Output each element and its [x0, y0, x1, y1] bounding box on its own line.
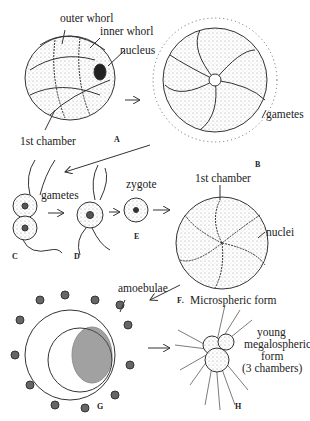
label-h-form: form: [261, 350, 283, 362]
label-outer-whorl: outer whorl: [60, 12, 113, 24]
label-gametes-c: gametes: [41, 189, 79, 201]
stage-e-zygote: [124, 198, 148, 222]
label-nuclei: nuclei: [266, 226, 294, 238]
label-nucleus: nucleus: [120, 44, 155, 56]
letter-g: G: [97, 402, 104, 411]
letter-e: E: [134, 232, 140, 241]
label-gametes-b: gametes: [266, 108, 304, 120]
letter-d: D: [74, 252, 80, 261]
stage-g-amoebulae: [11, 291, 134, 412]
label-h-megalospheric: megalospheric: [244, 338, 310, 350]
letter-h: H: [235, 402, 242, 411]
stage-a-shell: [25, 30, 125, 130]
letter-b: B: [255, 160, 261, 169]
label-first-chamber-a: 1st chamber: [20, 135, 76, 147]
letter-c: C: [12, 252, 18, 261]
letter-a: A: [114, 135, 120, 144]
label-first-chamber-f: 1st chamber: [195, 172, 251, 184]
label-h-young: young: [257, 326, 286, 338]
stage-c-gametes: [13, 160, 62, 253]
caption-microspheric-form: Microspheric form: [190, 294, 277, 306]
stage-d-gamete: [77, 165, 110, 255]
label-inner-whorl: inner whorl: [100, 25, 153, 37]
arrow-b-to-c: [65, 145, 150, 172]
label-amoebulae: amoebulae: [118, 282, 168, 294]
label-h-3-chambers: (3 chambers): [242, 362, 302, 374]
stage-f-microspheric: [176, 185, 268, 289]
stage-b-shell: [153, 18, 277, 142]
stage-h-megalospheric: [175, 305, 252, 410]
label-zygote: zygote: [126, 178, 157, 190]
letter-f: F.: [177, 296, 184, 305]
